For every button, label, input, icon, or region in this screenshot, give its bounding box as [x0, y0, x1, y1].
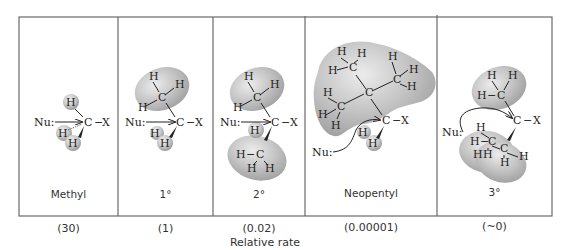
rate-primary: (1) [118, 222, 213, 235]
tertiary-molecule: H H H − C C − X Nu: H H − C H H C H H [442, 59, 541, 190]
svg-text:C: C [256, 148, 264, 161]
svg-text:H: H [409, 63, 419, 76]
svg-text:H: H [323, 86, 333, 99]
svg-text:H: H [149, 70, 159, 83]
svg-text:H: H [368, 137, 378, 150]
svg-text:−: − [487, 89, 496, 102]
figure-canvas: H H H Nu: C − X H H H C H H Nu: C − X [0, 0, 570, 250]
svg-text:C: C [365, 86, 373, 99]
svg-text:H: H [388, 50, 398, 63]
svg-text:H: H [500, 156, 510, 169]
svg-text:H: H [477, 89, 487, 102]
svg-text:C: C [84, 116, 92, 129]
svg-text:C: C [497, 89, 505, 102]
svg-text:H: H [328, 64, 338, 77]
svg-text:X: X [102, 116, 110, 129]
svg-text:Nu:: Nu: [442, 126, 462, 139]
svg-text:H: H [150, 127, 160, 140]
svg-text:H: H [250, 124, 260, 137]
panel-label-primary: 1° [118, 188, 213, 200]
svg-text:H: H [233, 101, 243, 114]
primary-molecule: H H H C H H Nu: C − X [125, 60, 203, 151]
svg-text:H: H [68, 137, 78, 150]
axis-label-relative-rate: Relative rate [0, 236, 550, 249]
panel-label-methyl: Methyl [19, 188, 118, 200]
svg-text:Nu:: Nu: [220, 116, 240, 129]
rate-secondary: (0.02) [213, 222, 305, 235]
sn2-steric-hindrance-figure: H H H Nu: C − X H H H C H H Nu: C − X [0, 0, 570, 250]
svg-text:H: H [470, 135, 480, 148]
methyl-molecule: H H H Nu: C − X [34, 94, 110, 151]
svg-text:H: H [487, 69, 497, 82]
svg-text:H: H [160, 137, 170, 150]
svg-text:H: H [58, 127, 68, 140]
svg-text:H: H [236, 148, 246, 161]
secondary-molecule: H H H C H H − C H H Nu: C − X [220, 60, 298, 187]
svg-text:C: C [271, 116, 279, 129]
svg-text:H: H [247, 162, 257, 175]
svg-text:H: H [476, 121, 486, 134]
svg-text:H: H [357, 47, 367, 60]
svg-text:H: H [519, 150, 529, 163]
svg-text:H: H [358, 126, 368, 139]
svg-text:−: − [392, 114, 401, 127]
svg-text:H: H [508, 69, 518, 82]
rate-neopentyl: (0.00001) [305, 221, 437, 234]
svg-text:H: H [331, 119, 341, 132]
panel-label-tertiary: 3° [437, 186, 552, 198]
svg-text:Nu:: Nu: [125, 116, 145, 129]
neopentyl-molecule: H H H C H H C H H H C H C H H C − X Nu: [312, 42, 436, 159]
svg-text:H: H [138, 101, 148, 114]
svg-text:C: C [176, 116, 184, 129]
svg-text:−: − [186, 116, 195, 129]
rate-tertiary: (~0) [437, 220, 552, 233]
svg-text:Nu:: Nu: [34, 116, 54, 129]
svg-text:H: H [244, 70, 254, 83]
svg-text:X: X [533, 114, 541, 127]
svg-text:−: − [281, 116, 290, 129]
svg-text:Nu:: Nu: [312, 146, 332, 159]
svg-text:X: X [195, 116, 203, 129]
svg-text:H: H [270, 78, 280, 91]
svg-text:C: C [158, 91, 166, 104]
svg-text:H: H [175, 78, 185, 91]
svg-text:C: C [513, 114, 521, 127]
panel-label-neopentyl: Neopentyl [305, 187, 437, 199]
panel-label-secondary: 2° [213, 188, 305, 200]
svg-text:H: H [407, 80, 417, 93]
svg-text:X: X [290, 116, 298, 129]
svg-text:C: C [253, 91, 261, 104]
rate-methyl: (30) [19, 222, 118, 235]
svg-text:−: − [523, 114, 532, 127]
svg-text:H: H [337, 45, 347, 58]
svg-text:H: H [473, 148, 483, 161]
svg-text:X: X [401, 114, 409, 127]
svg-text:C: C [337, 100, 345, 113]
svg-text:C: C [382, 114, 390, 127]
svg-text:−: − [246, 148, 255, 161]
svg-text:C: C [349, 61, 357, 74]
svg-text:H: H [66, 96, 76, 109]
